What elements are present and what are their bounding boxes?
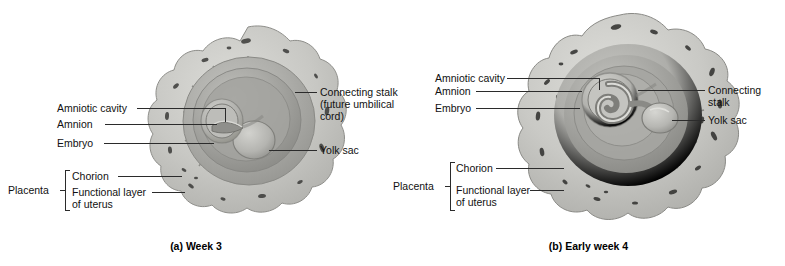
placenta-bracket-stem	[60, 190, 65, 191]
label-yolk-sac: Yolk sac	[320, 144, 359, 156]
label-functional-layer-line2: of uterus	[72, 198, 113, 210]
leader-amnion	[105, 124, 217, 125]
placenta-bracket-bottom	[450, 210, 455, 211]
panel-early-week-4: Amniotic cavity Amnion Embryo Connecting…	[392, 0, 785, 266]
illustration-week-3	[0, 0, 392, 266]
label-amnion: Amnion	[435, 85, 471, 97]
label-functional-layer-line2: of uterus	[456, 196, 497, 208]
caption-week-3: (a) Week 3	[0, 240, 392, 252]
leader-amnion	[476, 91, 582, 92]
label-embryo: Embryo	[57, 137, 93, 149]
label-chorion: Chorion	[72, 170, 109, 182]
leader-embryo	[104, 143, 214, 144]
placenta-bracket-top	[450, 162, 455, 163]
caption-early-week-4: (b) Early week 4	[392, 240, 785, 252]
leader-amniotic-cavity-tick	[225, 108, 226, 122]
label-connecting-stalk-line2: stalk	[708, 96, 730, 108]
label-functional-layer-of-uterus: Functional layer	[456, 184, 530, 196]
label-connecting-stalk: Connecting stalk	[320, 86, 398, 98]
panel-week-3: Amniotic cavity Amnion Embryo Connecting…	[0, 0, 392, 266]
placenta-bracket-stem	[445, 186, 450, 187]
label-connecting-stalk-line3: cord)	[320, 110, 344, 122]
leader-functional-layer	[530, 190, 564, 191]
label-yolk-sac: Yolk sac	[708, 114, 747, 126]
leader-amniotic-cavity	[137, 108, 225, 109]
leader-chorion	[496, 168, 564, 169]
label-functional-layer-of-uterus: Functional layer	[72, 186, 146, 198]
leader-connecting-stalk	[638, 90, 705, 91]
leader-connecting-stalk	[295, 92, 317, 93]
placenta-bracket-bottom	[65, 210, 70, 211]
label-placenta: Placenta	[393, 180, 434, 192]
label-connecting-stalk-line2: (future umbilical	[320, 98, 394, 110]
label-amniotic-cavity: Amniotic cavity	[435, 72, 505, 84]
label-embryo: Embryo	[435, 102, 471, 114]
leader-amniotic-cavity-tick	[599, 78, 600, 90]
placenta-bracket-spine	[450, 162, 451, 210]
label-amnion: Amnion	[57, 118, 93, 130]
leader-yolk-sac	[672, 120, 705, 121]
placenta-bracket-top	[65, 170, 70, 171]
label-placenta: Placenta	[8, 184, 49, 196]
label-chorion: Chorion	[456, 162, 493, 174]
label-connecting-stalk: Connecting	[708, 84, 761, 96]
leader-functional-layer	[152, 192, 185, 193]
label-amniotic-cavity: Amniotic cavity	[57, 102, 127, 114]
illustration-early-week-4	[392, 0, 785, 266]
leader-yolk-sac	[269, 150, 317, 151]
leader-embryo	[476, 108, 580, 109]
placenta-bracket-spine	[65, 170, 66, 210]
leader-chorion	[118, 176, 182, 177]
leader-amniotic-cavity	[507, 78, 599, 79]
